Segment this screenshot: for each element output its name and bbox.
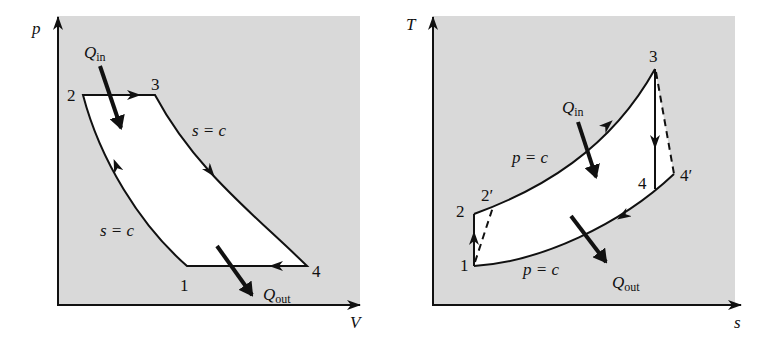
ts-point-2: 2 bbox=[456, 202, 465, 221]
ts-x-axis-label: s bbox=[734, 313, 741, 332]
ts-point-2prime: 2′ bbox=[481, 186, 493, 205]
ts-point-4: 4 bbox=[638, 174, 647, 193]
pv-diagram: p V 2 3 4 1 s = c s = c Qin Qout bbox=[31, 16, 363, 332]
pv-label-isentropic-compression: s = c bbox=[100, 221, 135, 240]
ts-point-1: 1 bbox=[460, 256, 469, 275]
brayton-cycle-figure: p V 2 3 4 1 s = c s = c Qin Qout bbox=[0, 0, 778, 344]
pv-point-3: 3 bbox=[151, 75, 160, 94]
pv-point-1: 1 bbox=[180, 276, 189, 295]
ts-label-heat-rejection: p = c bbox=[522, 260, 559, 279]
ts-y-axis-label: T bbox=[406, 15, 417, 34]
ts-diagram: T s 1 2 2′ 3 4 4′ p = c p = c Qin Qout bbox=[406, 15, 741, 332]
pv-y-axis-label: p bbox=[31, 19, 41, 38]
ts-label-heat-addition: p = c bbox=[511, 148, 548, 167]
pv-label-isentropic-expansion: s = c bbox=[192, 121, 227, 140]
ts-point-3: 3 bbox=[649, 47, 658, 66]
pv-point-2: 2 bbox=[67, 86, 76, 105]
pv-point-4: 4 bbox=[312, 262, 321, 281]
pv-x-axis-label: V bbox=[350, 313, 363, 332]
ts-point-4prime: 4′ bbox=[680, 166, 692, 185]
